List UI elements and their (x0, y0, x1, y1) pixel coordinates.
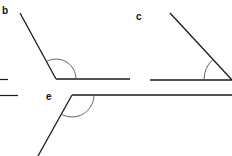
angle-c (150, 13, 232, 80)
label-b: b (2, 6, 8, 16)
angle-diagram: b c e (0, 0, 232, 156)
label-e: e (46, 92, 52, 102)
label-c: c (136, 12, 142, 22)
angle-c-arc (204, 59, 213, 80)
angle-drawing (0, 0, 232, 156)
angle-b-slanted-arm (20, 13, 56, 79)
angle-e (38, 95, 232, 156)
angle-c-slanted-arm (170, 13, 232, 80)
angle-e-slanted-arm (38, 95, 72, 156)
angle-b (20, 13, 130, 79)
